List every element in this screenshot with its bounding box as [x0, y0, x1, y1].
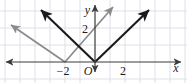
x-axis-label: x	[172, 61, 179, 75]
y-tick-label-2: 2	[82, 22, 88, 36]
y-axis-label: y	[84, 3, 91, 17]
x-tick-label-neg2: −2	[57, 64, 70, 78]
x-tick-label-pos2: 2	[120, 64, 126, 78]
coordinate-plane-svg: −2 2 2 O y x	[0, 0, 187, 83]
figure-background	[0, 0, 187, 83]
graph-figure: −2 2 2 O y x	[0, 0, 187, 83]
origin-label: O	[84, 64, 93, 78]
